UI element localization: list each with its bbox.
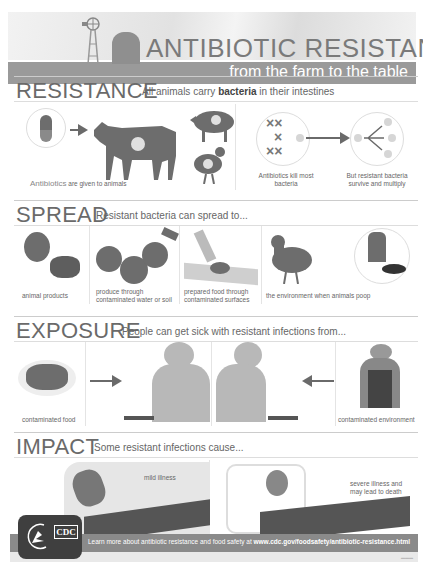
section-heading-spread: SPREAD Resistant bacteria can spread to.…	[14, 200, 418, 226]
footer-text: Learn more about antibiotic resistance a…	[88, 538, 410, 545]
panel-animal-products: animal products	[14, 226, 90, 304]
cdc-logo: CDC	[54, 525, 78, 539]
section-tagline: People can get sick with resistant infec…	[122, 326, 346, 337]
caption-resistant-survive: But resistant bacteria survive and multi…	[342, 172, 412, 188]
section-heading-impact: IMPACT Some resistant infections cause..…	[14, 432, 418, 458]
panel-contaminated-food: contaminated food	[14, 342, 86, 426]
capsule-icon	[40, 115, 52, 142]
bacteria-dot	[354, 134, 362, 142]
section-tagline: Some resistant infections cause...	[94, 442, 244, 453]
caption-mild-illness: mild illness	[144, 474, 176, 482]
panel-produce: produce through contaminated water or so…	[90, 226, 180, 304]
patient-head	[266, 470, 288, 496]
food-plate-icon	[26, 364, 68, 390]
section-heading-resistance: RESISTANCE All animals carry bacteria in…	[14, 76, 418, 102]
section-heading-exposure: EXPOSURE People can get sick with resist…	[14, 316, 418, 342]
steak-icon	[50, 256, 80, 278]
caption-severe-illness: severe illness and may lead to death	[350, 480, 410, 496]
panel-environment: the environment when animals poop	[262, 226, 418, 304]
header-banner: ANTIBIOTIC RESISTANCE from the farm to t…	[8, 12, 416, 74]
cdc-badge: CDC	[18, 515, 82, 559]
bacteria-dot	[388, 134, 396, 142]
panel-severe-illness: severe illness and may lead to death	[210, 460, 418, 534]
caption-antibiotics-kill: Antibiotics kill most bacteria	[256, 172, 316, 188]
tomato-icon	[96, 246, 122, 272]
panel-antibiotics-given: Antibiotics are given to animals	[14, 104, 236, 190]
tomato-icon	[142, 242, 168, 268]
x-icon: ××	[266, 144, 282, 158]
panel-contaminated-environment: contaminated environment	[336, 342, 418, 426]
plate-icon	[124, 416, 154, 420]
poop-icon	[382, 264, 406, 274]
section-title: SPREAD	[16, 202, 108, 228]
caption: prepared food through contaminated surfa…	[184, 288, 261, 304]
caption-contaminated-environment: contaminated environment	[338, 416, 415, 424]
branch-arrows-icon	[364, 122, 386, 154]
chicken-leg-icon	[368, 232, 386, 262]
chicken-icon	[192, 144, 228, 184]
food-icon	[210, 262, 230, 274]
caption-contaminated-food: contaminated food	[22, 416, 75, 424]
arrow-line	[306, 137, 342, 139]
x-icon: ×	[274, 130, 282, 144]
arrow-line	[310, 380, 334, 382]
drumstick-icon	[24, 232, 50, 262]
panel-prepared-food: prepared food through contaminated surfa…	[180, 226, 262, 304]
windmill-icon	[82, 16, 102, 64]
section-tagline: All animals carry bacteria in their inte…	[142, 86, 334, 97]
caption: the environment when animals poop	[266, 292, 370, 300]
x-icon: ××	[266, 116, 282, 130]
section-title: IMPACT	[16, 434, 99, 460]
footer-link[interactable]: www.cdc.gov/foodsafety/antibiotic-resist…	[254, 538, 411, 545]
caption: produce through contaminated water or so…	[96, 288, 179, 304]
person-body	[152, 364, 210, 422]
caption: animal products	[22, 292, 68, 300]
arrow-right-icon	[112, 375, 122, 387]
hose-icon	[161, 227, 179, 241]
panel-person-eating	[86, 342, 212, 426]
caption-antibiotics-given: Antibiotics are given to animals	[30, 180, 126, 188]
page-title: ANTIBIOTIC RESISTANCE	[146, 33, 423, 64]
section-tagline: Resistant bacteria can spread to...	[96, 210, 248, 221]
cow-icon	[92, 116, 180, 182]
document-code: ▬▬▬	[401, 555, 413, 560]
plate-icon	[268, 416, 298, 420]
overalls	[368, 370, 392, 408]
arrow-right-icon	[78, 124, 88, 136]
arrow-left-icon	[302, 375, 312, 387]
hhs-eagle-icon	[24, 521, 50, 551]
panel-person-eating-2	[212, 342, 336, 426]
arrow-right-icon	[340, 132, 350, 144]
chicken-icon	[268, 232, 318, 284]
knife-icon	[194, 229, 217, 262]
infographic-poster: ANTIBIOTIC RESISTANCE from the farm to t…	[0, 0, 423, 571]
panel-resistant-bacteria: ×× × ×× Antibiotics kill most bacteria B…	[236, 104, 418, 190]
person-body	[216, 364, 266, 422]
barn-icon	[112, 32, 140, 64]
arrow-line	[90, 380, 114, 382]
section-title: RESISTANCE	[16, 78, 158, 104]
pig-icon	[186, 108, 236, 144]
bacteria-dot	[296, 134, 304, 142]
